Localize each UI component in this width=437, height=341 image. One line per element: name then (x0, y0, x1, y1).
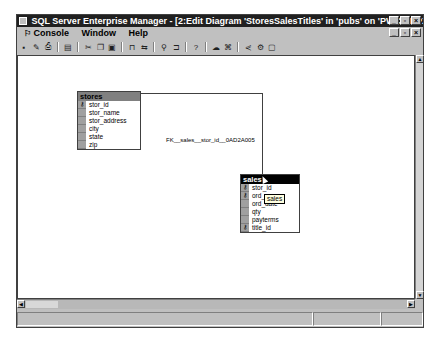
help-icon[interactable]: ? (191, 42, 201, 52)
key-icon: ⚷ (78, 101, 86, 109)
table-title[interactable]: sales (241, 175, 299, 184)
table-stores[interactable]: stores ⚷stor_id stor_name stor_address c… (77, 91, 141, 150)
zoom-icon[interactable]: ⚲ (159, 42, 169, 52)
relationship-line[interactable] (262, 93, 263, 174)
app-window: SQL Server Enterprise Manager - [2:Edit … (16, 14, 424, 328)
console-icon: ⚐ (24, 29, 31, 38)
relationships-icon[interactable]: ⌘ (223, 42, 233, 52)
minimize-button[interactable]: _ (389, 16, 399, 25)
menu-console[interactable]: ⚐ Console (21, 27, 72, 40)
menu-help[interactable]: Help (125, 27, 151, 39)
table-row[interactable]: ⚷title_id (241, 224, 299, 232)
table-row[interactable]: city (78, 125, 140, 133)
toolbar-separator (185, 42, 187, 52)
title-bar: SQL Server Enterprise Manager - [2:Edit … (17, 15, 423, 27)
toolbar-separator (153, 42, 155, 52)
toolbar-separator (57, 42, 59, 52)
print-icon[interactable]: ⎙ (43, 42, 53, 52)
toolbar-separator (237, 42, 239, 52)
table-row[interactable]: stor_address (78, 117, 140, 125)
new-table-icon[interactable]: ⊓ (127, 42, 137, 52)
layout-icon[interactable]: ⊐ (171, 42, 181, 52)
maximize-button[interactable]: ▫ (400, 16, 410, 25)
copy-diagram-icon[interactable]: ▤ (63, 42, 73, 52)
indexes-icon[interactable]: ☁ (211, 42, 221, 52)
close-button[interactable]: × (411, 16, 421, 25)
scroll-down-button[interactable]: ▼ (416, 291, 424, 299)
tooltip: sales (264, 194, 285, 204)
status-pane-main (17, 312, 313, 326)
page-breaks-icon[interactable]: ▢ (267, 42, 277, 52)
cut-icon[interactable]: ✂ (83, 42, 93, 52)
paste-icon[interactable]: ▣ (107, 42, 117, 52)
table-row[interactable]: ⚷stor_id (241, 184, 299, 192)
key-icon: ⚷ (241, 224, 249, 232)
table-row[interactable]: qty (241, 208, 299, 216)
table-title[interactable]: stores (78, 92, 140, 101)
toolbar-separator (121, 42, 123, 52)
status-pane-2 (313, 312, 381, 326)
table-row[interactable]: zip (78, 141, 140, 149)
copy-icon[interactable]: ❐ (95, 42, 105, 52)
relationship-label: FK__sales__stor_id__0AD2A005 (166, 137, 255, 143)
add-table-icon[interactable]: ⇆ (139, 42, 149, 52)
child-minimize-button[interactable]: _ (389, 28, 399, 37)
table-row[interactable]: state (78, 133, 140, 141)
arrange-icon[interactable]: ⋞ (243, 42, 253, 52)
vertical-scrollbar[interactable]: ▲ ▼ (415, 55, 423, 299)
scroll-left-button[interactable]: ◀ (17, 300, 25, 308)
table-row[interactable]: stor_name (78, 109, 140, 117)
diagram-canvas[interactable]: stores ⚷stor_id stor_name stor_address c… (17, 55, 415, 299)
app-icon (19, 17, 27, 25)
window-title: SQL Server Enterprise Manager - [2:Edit … (32, 15, 423, 27)
table-row[interactable]: ⚷stor_id (78, 101, 140, 109)
status-pane-3 (381, 312, 423, 326)
toolbar-separator (77, 42, 79, 52)
scroll-right-button[interactable]: ▶ (407, 300, 415, 308)
properties-icon[interactable]: ✎ (31, 42, 41, 52)
horizontal-scrollbar[interactable]: ◀ ▶ (17, 299, 415, 309)
toolbar-separator (205, 42, 207, 52)
relationship-line[interactable] (141, 93, 263, 94)
key-icon: ⚷ (241, 184, 249, 192)
toolbar: ▪ ✎ ⎙ ▤ ✂ ❐ ▣ ⊓ ⇆ ⚲ ⊐ ? ☁ ⌘ ⋞ ⚙ ▢ (17, 40, 423, 54)
table-row[interactable]: payterms (241, 216, 299, 224)
scroll-up-button[interactable]: ▲ (416, 55, 424, 63)
menu-window[interactable]: Window (79, 27, 119, 39)
child-close-button[interactable]: × (411, 28, 421, 37)
key-icon: ⚷ (241, 192, 249, 200)
menu-bar: ⚐ Console Window Help (17, 27, 423, 39)
scroll-thumb[interactable] (26, 301, 58, 308)
show-labels-icon[interactable]: ⚙ (255, 42, 265, 52)
status-bar (17, 311, 423, 327)
save-icon[interactable]: ▪ (19, 42, 29, 52)
child-restore-button[interactable]: ▫ (400, 28, 410, 37)
